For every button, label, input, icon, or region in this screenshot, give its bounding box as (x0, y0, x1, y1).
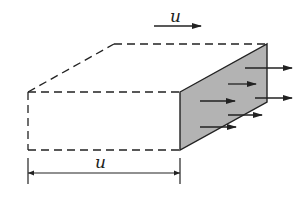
shaded-cross-section-face (180, 44, 267, 150)
velocity-indicator: u (154, 6, 201, 26)
length-label: u (95, 152, 106, 172)
left-top-diagonal-edge (28, 44, 114, 92)
dimension-arrowhead-right-icon (174, 171, 180, 176)
diagram-canvas: u u (0, 0, 303, 209)
velocity-label: u (170, 6, 181, 26)
dimension-arrowhead-left-icon (28, 171, 34, 176)
